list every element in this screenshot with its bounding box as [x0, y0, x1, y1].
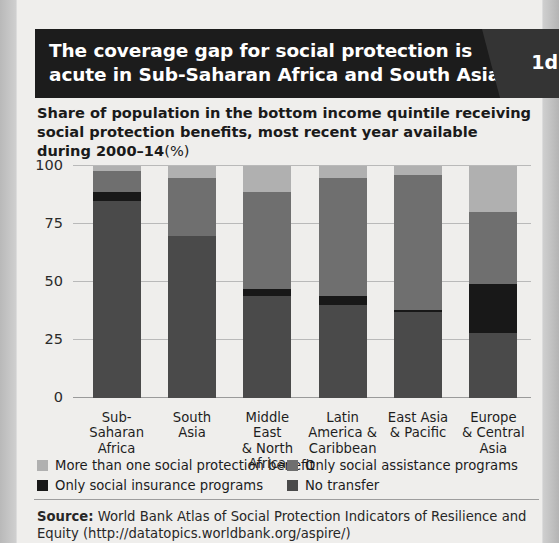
chart-area: 0255075100Sub-Saharan AfricaSouth AsiaMi… — [37, 158, 535, 408]
figure-number-block: 1d — [500, 29, 559, 98]
source-line-2: Equity (http://datatopics.worldbank.org/… — [37, 526, 351, 541]
bar-segment — [394, 310, 442, 312]
gridline-0: 0 — [73, 397, 531, 398]
source-note: Source: World Bank Atlas of Social Prote… — [37, 508, 537, 542]
source-line-1: World Bank Atlas of Social Protection In… — [94, 509, 527, 524]
bar-segment — [394, 175, 442, 310]
bar-segment — [319, 305, 367, 398]
x-axis-tick-label: Sub-Saharan Africa — [79, 410, 154, 456]
bar-stack — [168, 166, 216, 398]
x-axis-tick-label: East Asia & Pacific — [380, 410, 455, 441]
bar-segment — [93, 192, 141, 201]
bar-stack — [243, 166, 291, 398]
chart-subtitle-main: Share of population in the bottom income… — [37, 104, 531, 159]
source-label: Source: — [37, 509, 94, 524]
legend-item: More than one social protection benefit — [37, 458, 287, 473]
bar-segment — [243, 289, 291, 296]
bar-segment — [168, 166, 216, 178]
no-transfer-swatch — [287, 480, 298, 491]
bar-segment — [319, 166, 367, 178]
bar-segment — [469, 333, 517, 398]
gridline-100: 100 — [73, 165, 531, 166]
bar-segment — [469, 166, 517, 212]
y-axis-tick-label: 50 — [45, 273, 63, 289]
figure-title: The coverage gap for social protection i… — [35, 29, 500, 98]
bar-segment — [469, 284, 517, 333]
bar-segment — [394, 166, 442, 175]
bar-segment — [93, 166, 141, 171]
legend-item-label: More than one social protection benefit — [55, 458, 315, 473]
bar-segment — [469, 212, 517, 284]
bar-stack — [319, 166, 367, 398]
figure-number: 1d — [531, 51, 558, 73]
bar-segment — [319, 178, 367, 296]
y-axis-tick-label: 0 — [54, 389, 63, 405]
legend-item: Only social assistance programs — [287, 458, 537, 473]
page-backdrop: The coverage gap for social protection i… — [0, 0, 559, 543]
x-axis-tick-label: Europe & Central Asia — [456, 410, 531, 456]
legend-item-label: Only social assistance programs — [305, 458, 518, 473]
bar-segment — [319, 296, 367, 305]
figure-panel: The coverage gap for social protection i… — [17, 0, 542, 543]
only-assistance-swatch — [287, 460, 298, 471]
bar-segment — [168, 178, 216, 236]
plot-area: 0255075100Sub-Saharan AfricaSouth AsiaMi… — [79, 166, 531, 398]
y-axis-tick-label: 25 — [45, 331, 63, 347]
bar-segment — [93, 171, 141, 192]
bar-segment — [168, 236, 216, 398]
gridline-50: 50 — [73, 281, 531, 282]
bar-stack — [93, 166, 141, 398]
bar-stack — [469, 166, 517, 398]
bar-segment — [243, 166, 291, 192]
gridline-75: 75 — [73, 223, 531, 224]
chart-subtitle: Share of population in the bottom income… — [37, 104, 535, 161]
x-axis-tick-label: Latin America & Caribbean — [305, 410, 380, 456]
legend-item: Only social insurance programs — [37, 478, 287, 493]
legend-item-label: Only social insurance programs — [55, 478, 263, 493]
legend-item: No transfer — [287, 478, 537, 493]
x-axis-tick-label: South Asia — [154, 410, 229, 441]
figure-title-line-1: The coverage gap for social protection i… — [49, 39, 500, 63]
figure-title-bar: The coverage gap for social protection i… — [35, 29, 524, 98]
bar-segment — [243, 296, 291, 398]
bar-segment — [93, 201, 141, 398]
chart-legend: More than one social protection benefitO… — [37, 455, 537, 495]
legend-divider — [34, 499, 539, 500]
bar-segment — [243, 192, 291, 289]
only-insurance-swatch — [37, 480, 48, 491]
chart-subtitle-unit: (%) — [164, 142, 189, 159]
y-axis-tick-label: 75 — [45, 215, 63, 231]
y-axis-tick-label: 100 — [35, 157, 63, 173]
legend-item-label: No transfer — [305, 478, 379, 493]
gridline-25: 25 — [73, 339, 531, 340]
figure-title-line-2: acute in Sub-Saharan Africa and South As… — [49, 63, 500, 87]
bar-segment — [394, 312, 442, 398]
bar-stack — [394, 166, 442, 398]
more-than-one-swatch — [37, 460, 48, 471]
